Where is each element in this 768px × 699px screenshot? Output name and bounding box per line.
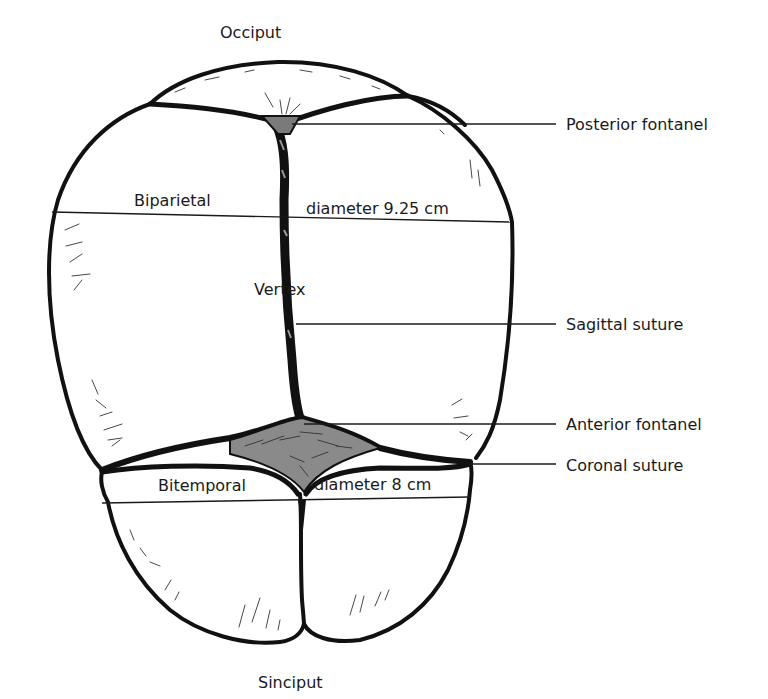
callout-posterior-fontanel: Posterior fontanel bbox=[566, 115, 708, 134]
occiput-label: Occiput bbox=[220, 23, 281, 42]
occipital-bone bbox=[150, 62, 408, 124]
biparietal-value-label: diameter 9.25 cm bbox=[306, 199, 449, 218]
callout-sagittal-suture: Sagittal suture bbox=[566, 315, 683, 334]
sinciput-label: Sinciput bbox=[258, 673, 323, 692]
callout-coronal-suture: Coronal suture bbox=[566, 456, 683, 475]
biparietal-label: Biparietal bbox=[134, 191, 211, 210]
vertex-label: Vertex bbox=[254, 280, 305, 299]
bitemporal-value-label: diameter 8 cm bbox=[314, 475, 431, 494]
bitemporal-diameter-line bbox=[102, 497, 470, 503]
callout-anterior-fontanel: Anterior fontanel bbox=[566, 415, 702, 434]
posterior-fontanel bbox=[262, 116, 300, 134]
fetal-skull-diagram: Occiput Sinciput Vertex Biparietal diame… bbox=[0, 0, 768, 699]
sagittal-suture bbox=[276, 124, 300, 418]
bitemporal-label: Bitemporal bbox=[158, 476, 246, 495]
